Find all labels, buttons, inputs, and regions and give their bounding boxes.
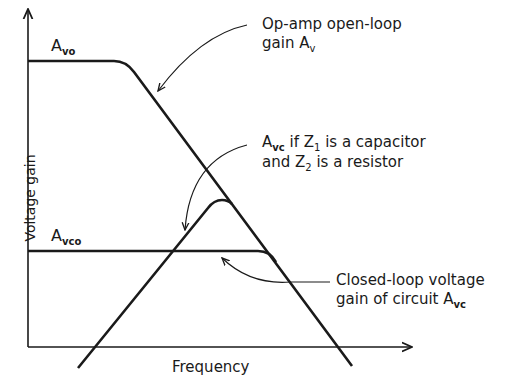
avco-label: Avco: [51, 228, 81, 246]
closed-loop-gain-curve: [28, 251, 276, 262]
gain-diagram-canvas: [0, 0, 505, 387]
open-loop-gain-curve: [28, 61, 352, 366]
avo-label: Avo: [51, 38, 75, 56]
capacitor-callout-arrow: [185, 145, 247, 230]
open-loop-callout-arrow: [158, 25, 247, 91]
capacitor-gain-curve: [78, 200, 232, 368]
capacitor-annotation: Avc if Z1 is a capacitor and Z2 is a res…: [262, 133, 426, 173]
open-loop-annotation: Op-amp open-loop gain Av: [262, 15, 402, 54]
closed-loop-annotation: Closed-loop voltage gain of circuit Avc: [336, 271, 485, 310]
y-axis-label: Voltage gain: [22, 138, 38, 258]
x-axis-label: Frequency: [172, 359, 250, 375]
